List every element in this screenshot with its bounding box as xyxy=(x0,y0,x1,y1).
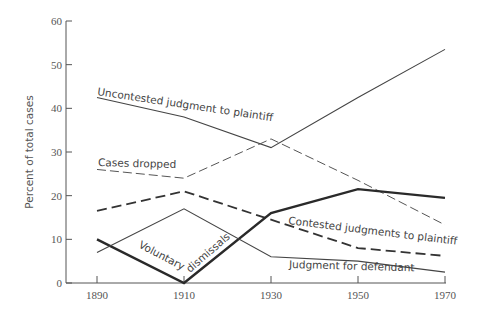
axes xyxy=(66,21,446,283)
y-tick-label: 40 xyxy=(51,102,63,114)
y-tick-label: 60 xyxy=(51,15,63,27)
y-axis-label: Percent of total cases xyxy=(23,95,35,208)
label-contested: Contested judgments to plaintiff xyxy=(288,214,459,247)
series-labels: Uncontested judgment to plaintiff Cases … xyxy=(97,85,459,274)
x-tick-label: 1950 xyxy=(347,289,370,301)
y-tick-label: 20 xyxy=(51,190,63,202)
y-tick-label: 50 xyxy=(51,59,63,71)
x-tick-label: 1890 xyxy=(86,289,109,301)
x-tick-label: 1970 xyxy=(434,289,457,301)
y-ticks: 0102030405060 xyxy=(51,15,72,289)
x-ticks: 18901910193019501970 xyxy=(86,276,457,301)
y-tick-label: 0 xyxy=(57,277,63,289)
x-tick-label: 1930 xyxy=(260,289,283,301)
y-tick-label: 30 xyxy=(51,146,63,158)
line-chart: 0102030405060 18901910193019501970 Perce… xyxy=(0,0,477,317)
label-defendant: Judgment for defendant xyxy=(288,258,415,273)
y-tick-label: 10 xyxy=(51,233,63,245)
x-tick-label: 1910 xyxy=(173,289,196,301)
label-voluntary-2: dismissals xyxy=(183,230,232,274)
label-voluntary-1: Voluntary xyxy=(137,238,187,272)
label-cases-dropped: Cases dropped xyxy=(98,156,176,170)
